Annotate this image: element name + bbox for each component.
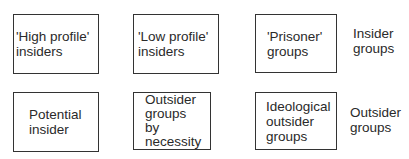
box-ideological-outsider-groups: Ideological outsider groups	[255, 92, 337, 150]
box-low-profile-insiders: 'Low profile' insiders	[133, 14, 219, 74]
box-text: Outsider groups by necessity	[145, 93, 201, 149]
box-text: Ideological outsider groups	[266, 99, 331, 144]
box-high-profile-insiders: 'High profile' insiders	[13, 14, 99, 74]
box-prisoner-groups: 'Prisoner' groups	[255, 14, 337, 73]
box-outsider-groups-by-necessity: Outsider groups by necessity	[133, 92, 211, 150]
box-text: Potential insider	[29, 107, 82, 137]
box-text: 'Prisoner' groups	[267, 29, 322, 59]
row-label-outsider-groups: Outsider groups	[350, 105, 401, 135]
box-text: 'High profile' insiders	[16, 29, 89, 59]
box-potential-insider: Potential insider	[13, 92, 99, 152]
row-label-insider-groups: Insider groups	[353, 26, 394, 56]
box-text: 'Low profile' insiders	[138, 29, 208, 59]
